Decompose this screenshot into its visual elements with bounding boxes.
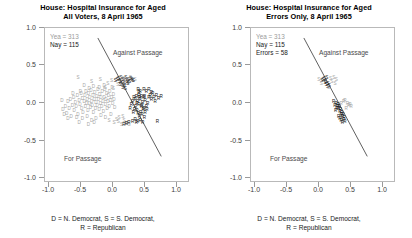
x-tick-label-1: 1.0 (161, 186, 191, 193)
data-point-D: D (113, 105, 117, 110)
x-tick-mark (176, 182, 177, 187)
x-tick-label-neg05: -0.5 (271, 186, 301, 193)
data-point-D: D (92, 110, 96, 115)
data-point-S: S (112, 86, 115, 91)
caption-all-voters: D = N. Democrat, S = S. Democrat, R = Re… (0, 214, 206, 232)
data-point-D: D (60, 98, 64, 103)
y-tick-label-neg1: -1.0 (212, 174, 242, 181)
data-point-S: S (110, 78, 113, 83)
data-point-S: S (333, 81, 336, 86)
annotation-for-passage: For Passage (64, 155, 101, 162)
y-tick-label-00: 0.0 (212, 99, 242, 106)
data-point-R: R (349, 104, 353, 109)
caption-line2: R = Republican (80, 224, 125, 231)
legend-all-voters: Yea = 313 Nay = 115 (50, 33, 79, 49)
y-tick-label-05: 0.5 (6, 61, 36, 68)
data-point-S: S (104, 85, 107, 90)
data-point-S: S (131, 77, 134, 82)
y-tick-label-00: 0.0 (6, 99, 36, 106)
x-tick-mark (144, 182, 145, 187)
x-tick-mark (350, 182, 351, 187)
legend-errors-only: Yea = 313 Nay = 115 Errors = 58 (256, 33, 288, 58)
data-point-D: D (81, 116, 85, 121)
caption-errors-only: D = N. Democrat, S = S. Democrat, R = Re… (206, 214, 412, 232)
panel-title-line2: All Voters, 8 April 1965 (0, 12, 206, 21)
panel-title-line2: Errors Only, 8 April 1965 (206, 12, 412, 21)
legend-errors-count: Errors = 58 (256, 49, 288, 57)
x-tick-mark (48, 182, 49, 187)
data-point-S: S (115, 117, 118, 122)
legend-nay-count: Nay = 115 (256, 41, 288, 49)
legend-yea-count: Yea = 313 (50, 33, 79, 41)
caption-line2: R = Republican (286, 224, 331, 231)
y-tick-label-neg05: -0.5 (6, 137, 36, 144)
data-point-D: D (109, 112, 113, 117)
data-point-R: R (156, 119, 160, 124)
data-point-D: D (69, 114, 73, 119)
caption-line1: D = N. Democrat, S = S. Democrat, (51, 215, 154, 222)
data-point-S: S (323, 80, 326, 85)
panel-title-line1: House: Hospital Insurance for Aged (206, 3, 412, 12)
x-tick-label-05: 0.5 (335, 186, 365, 193)
data-point-S: S (99, 77, 102, 82)
data-point-D: D (112, 92, 116, 97)
x-tick-label-00: 0.0 (97, 186, 127, 193)
data-point-S: S (320, 81, 323, 86)
data-point-S: S (76, 75, 79, 80)
panel-title-line1: House: Hospital Insurance for Aged (0, 3, 206, 12)
x-tick-label-05: 0.5 (129, 186, 159, 193)
data-point-S: S (121, 114, 124, 119)
x-tick-mark (318, 182, 319, 187)
data-point-R: R (160, 94, 164, 99)
data-point-S: S (114, 78, 117, 83)
data-point-D: D (112, 97, 116, 102)
figure-root: House: Hospital Insurance for Aged All V… (0, 0, 412, 238)
panel-title-errors-only: House: Hospital Insurance for Aged Error… (206, 3, 412, 21)
x-tick-label-neg1: -1.0 (33, 186, 63, 193)
x-tick-mark (254, 182, 255, 187)
x-tick-label-neg1: -1.0 (239, 186, 269, 193)
legend-yea-count: Yea = 313 (256, 33, 288, 41)
y-tick-label-1: 1.0 (212, 24, 242, 31)
data-point-D: D (83, 83, 87, 88)
x-tick-mark (286, 182, 287, 187)
x-tick-label-00: 0.0 (303, 186, 333, 193)
y-tick-label-1: 1.0 (6, 24, 36, 31)
legend-nay-count: Nay = 115 (50, 41, 79, 49)
y-tick-label-neg1: -1.0 (6, 174, 36, 181)
x-tick-label-1: 1.0 (367, 186, 397, 193)
panel-errors-only: House: Hospital Insurance for Aged Error… (206, 0, 412, 238)
x-tick-label-neg05: -0.5 (65, 186, 95, 193)
y-tick-label-neg05: -0.5 (212, 137, 242, 144)
annotation-for-passage: For Passage (270, 155, 307, 162)
panel-all-voters: House: Hospital Insurance for Aged All V… (0, 0, 206, 238)
data-point-S: S (108, 118, 111, 123)
annotation-against-passage: Against Passage (113, 49, 163, 56)
panel-title-all-voters: House: Hospital Insurance for Aged All V… (0, 3, 206, 21)
data-point-R: R (143, 115, 147, 120)
data-point-S: S (90, 79, 93, 84)
x-tick-mark (382, 182, 383, 187)
x-tick-mark (80, 182, 81, 187)
caption-line1: D = N. Democrat, S = S. Democrat, (257, 215, 360, 222)
data-point-R: R (145, 107, 149, 112)
y-tick-label-05: 0.5 (212, 61, 242, 68)
annotation-against-passage: Against Passage (319, 49, 369, 56)
x-tick-mark (112, 182, 113, 187)
